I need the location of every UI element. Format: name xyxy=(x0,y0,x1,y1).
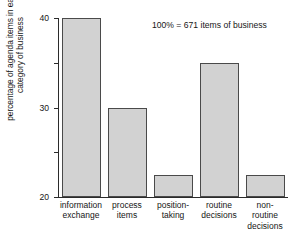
x-axis-category-label: processitems xyxy=(104,200,150,221)
x-axis-category-label-line: process xyxy=(104,200,150,210)
x-axis-category-label-line: items xyxy=(104,210,150,220)
x-axis-category-label-line: routine xyxy=(242,210,288,220)
x-axis-category-label-line: exchange xyxy=(58,210,104,220)
y-tick-mark: 40 xyxy=(54,18,58,19)
y-axis-title-line-1: percentage of agenda items in each xyxy=(5,0,15,145)
bar xyxy=(154,175,193,197)
y-tick-mark: 0 xyxy=(54,197,58,198)
x-axis-category-label-line: position- xyxy=(150,200,196,210)
x-axis-category-label-line: routine xyxy=(196,200,242,210)
y-axis-title-line-2: category of business xyxy=(15,0,25,145)
x-axis-category-label: informationexchange xyxy=(58,200,104,221)
x-axis-line xyxy=(58,197,288,198)
y-tick-label: 20 xyxy=(39,193,49,202)
bar xyxy=(200,63,239,197)
y-tick-mark: 20 xyxy=(54,108,58,109)
plot-area: 010203040 informationexchangeprocessitem… xyxy=(58,18,288,197)
y-tick-label: 30 xyxy=(39,103,49,112)
x-axis-category-label-line: decisions xyxy=(196,210,242,220)
bar xyxy=(108,108,147,198)
x-axis-category-label-line: decisions xyxy=(242,221,288,231)
x-axis-category-label-line: taking xyxy=(150,210,196,220)
y-tick-label: 40 xyxy=(39,14,49,23)
x-axis-category-label: routinedecisions xyxy=(196,200,242,221)
y-tick-mark: 30 xyxy=(54,63,58,64)
bar xyxy=(246,175,285,197)
y-axis-line xyxy=(58,18,59,197)
bar xyxy=(62,18,101,197)
y-tick-mark: 10 xyxy=(54,152,58,153)
y-axis-title: percentage of agenda items in each categ… xyxy=(5,0,35,145)
x-axis-category-label-line: non- xyxy=(242,200,288,210)
bar-chart-figure: percentage of agenda items in each categ… xyxy=(0,0,294,242)
x-axis-category-label-line: information xyxy=(58,200,104,210)
x-axis-category-label: non-routinedecisions xyxy=(242,200,288,231)
x-axis-category-label: position-taking xyxy=(150,200,196,221)
